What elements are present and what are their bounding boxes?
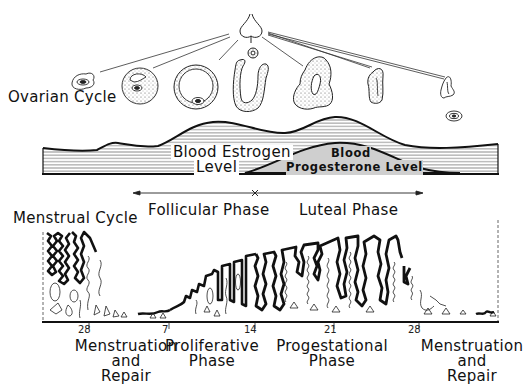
day-tick-label: 7 bbox=[162, 325, 168, 335]
stage-label-menstruation-right: Menstruation and Repair bbox=[421, 339, 523, 384]
progesterone-label-line1: Blood bbox=[331, 146, 371, 161]
stage-label-menstruation-left: Menstruation and Repair bbox=[75, 339, 178, 384]
stage-label-proliferative: Proliferative Phase bbox=[165, 339, 259, 369]
day-tick-label: 21 bbox=[324, 325, 337, 335]
corpus-luteum-icon bbox=[293, 57, 332, 109]
ruptured-follicle-icon bbox=[233, 59, 268, 111]
follicular-phase-label: Follicular Phase bbox=[148, 203, 269, 218]
day-tick-label: 28 bbox=[408, 325, 421, 335]
estrogen-label-line2: Level bbox=[194, 160, 239, 175]
menstrual-cycle-title: Menstrual Cycle bbox=[13, 211, 138, 226]
regressing-corpus-luteum-icon bbox=[368, 69, 383, 104]
progesterone-label-line2: Progesterone Level bbox=[286, 160, 423, 175]
growing-follicle-icon bbox=[122, 68, 158, 104]
primordial-follicle-icon bbox=[72, 73, 94, 89]
endometrium-illustration bbox=[42, 220, 499, 329]
ovum-icon bbox=[248, 48, 258, 58]
ovary-icon bbox=[240, 14, 262, 43]
day-tick-label: 28 bbox=[78, 325, 91, 335]
phase-arrows bbox=[133, 190, 423, 196]
ovarian-cycle-title: Ovarian Cycle bbox=[8, 90, 117, 105]
mature-follicle-icon bbox=[174, 65, 218, 109]
corpus-albicans-icon bbox=[441, 77, 462, 121]
stage-label-progestational: Progestational Phase bbox=[276, 339, 388, 369]
day-tick-label: 14 bbox=[244, 325, 257, 335]
luteal-phase-label: Luteal Phase bbox=[299, 203, 398, 218]
